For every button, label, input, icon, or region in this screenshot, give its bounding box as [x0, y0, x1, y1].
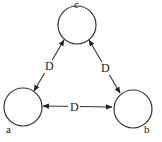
edge-c-b-label: D [101, 61, 110, 75]
node-a-circle [4, 88, 42, 126]
node-c-circle [58, 6, 96, 44]
edge-a-b: D [43, 100, 112, 114]
edge-a-b-label: D [70, 100, 79, 114]
node-b-label: b [144, 123, 150, 135]
edge-c-a-label: D [45, 59, 54, 73]
node-c-label: c [74, 0, 79, 10]
node-a-label: a [6, 123, 11, 135]
node-a: a [4, 88, 42, 135]
diagram-canvas: D D D c a b [0, 0, 162, 142]
edge-c-b: D [89, 40, 120, 93]
node-b: b [114, 90, 152, 135]
node-c: c [58, 0, 96, 44]
edge-c-a: D [34, 40, 64, 91]
